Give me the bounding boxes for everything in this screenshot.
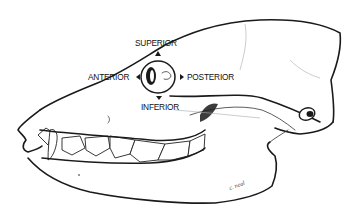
ear-canal-shadow (307, 111, 314, 117)
label-posterior: POSTERIOR (187, 72, 234, 82)
occipital-outline (275, 122, 333, 134)
inferior-arrow-icon (156, 96, 162, 100)
mandible-angle (270, 130, 288, 142)
anterior-arrow-icon (136, 74, 140, 80)
infraorbital-foramen (108, 116, 110, 123)
maxilla-outline (18, 110, 42, 152)
orbit-highlight (150, 70, 154, 82)
mental-foramen (78, 174, 80, 176)
suture-line (240, 24, 246, 70)
label-anterior: ANTERIOR (88, 72, 129, 82)
posterior-arrow-icon (180, 74, 184, 80)
suture-line (290, 60, 320, 78)
zygomatic-arch (170, 95, 320, 122)
label-superior: SUPERIOR (135, 38, 177, 48)
label-inferior: INFERIOR (141, 102, 179, 112)
suture-line (175, 110, 260, 118)
artist-signature: c. neal (228, 180, 245, 191)
skull-dorsal-outline (40, 20, 340, 122)
skull-diagram: SUPERIOR ANTERIOR POSTERIOR INFERIOR c. … (0, 0, 352, 219)
superior-arrow-icon (155, 51, 161, 56)
